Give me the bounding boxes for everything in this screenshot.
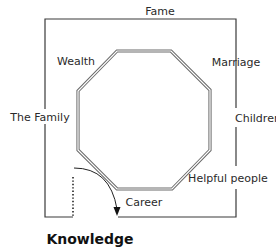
entrance-curved-arrow [74,168,117,209]
label-career: Career [126,196,163,209]
label-wealth: Wealth [57,55,95,68]
label-knowledge: Knowledge [46,231,133,247]
octagon [78,51,210,189]
label-helpful-people: Helpful people [188,172,268,185]
label-the-family: The Family [9,111,70,124]
label-fame: Fame [145,5,175,18]
bagua-diagram: Fame Wealth Marriage The Family Children… [0,0,276,251]
label-children: Children [235,112,276,125]
octagon-outer-line [78,51,210,189]
room-wall-left-lower [45,124,73,217]
arrowhead-icon [114,207,121,216]
label-marriage: Marriage [212,56,261,69]
